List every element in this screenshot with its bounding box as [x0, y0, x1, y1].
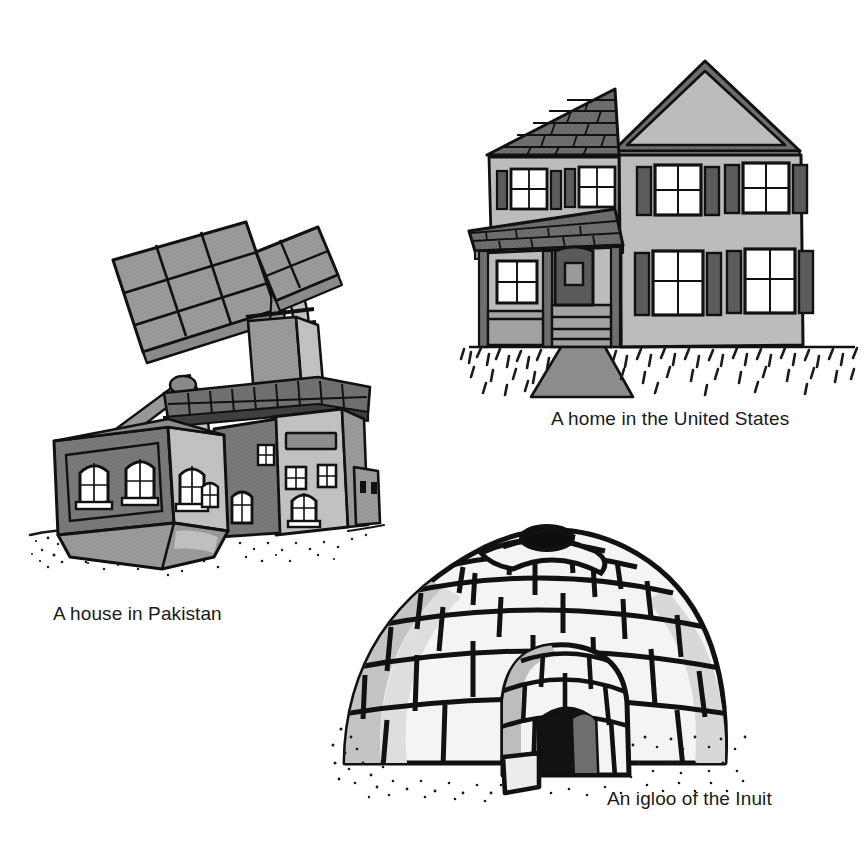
left-upper-windows [497, 167, 615, 209]
figure-inuit-igloo [325, 505, 755, 800]
shutter [707, 253, 721, 315]
right-block-lintel-panel [286, 433, 336, 449]
main-block-small-window [202, 482, 218, 507]
igloo-entrance-tunnel [501, 645, 631, 793]
shutter [551, 171, 561, 209]
shutter [705, 167, 719, 215]
left-lower-window [497, 261, 537, 303]
illustration-page: A house in Pakistan A home in the United… [0, 0, 868, 845]
shutter [799, 251, 813, 313]
shutter [727, 251, 741, 313]
annex-slit-1 [360, 481, 366, 493]
gable-field [627, 71, 785, 145]
left-wing [469, 89, 623, 347]
caption-inuit-igloo: An igloo of the Inuit [607, 788, 772, 810]
shutter [635, 253, 649, 315]
porch-post-middle [543, 251, 552, 347]
grass-tufts [461, 348, 857, 395]
front-door[interactable] [555, 247, 593, 305]
tunnel-lip-left [503, 753, 539, 793]
tunnel-opening-inner-light [573, 714, 597, 773]
figure-us-home [455, 55, 865, 400]
left-upper-roof [487, 89, 619, 155]
shutter [637, 167, 651, 215]
porch-post-right [611, 247, 620, 347]
walkway [531, 347, 633, 397]
house-main-block [54, 419, 228, 569]
house-united-states-illustration [455, 55, 865, 400]
igloo-illustration [325, 505, 755, 800]
porch-steps [552, 305, 611, 347]
shutter [725, 165, 739, 213]
shutter [497, 171, 507, 209]
porch-rail-left [488, 311, 543, 345]
shutter [793, 165, 807, 213]
door-panel [565, 263, 583, 285]
annex-slit-2 [371, 482, 377, 494]
caption-united-states-home: A home in the United States [551, 408, 789, 430]
porch-post-left [479, 251, 488, 347]
shutter [565, 169, 575, 207]
caption-pakistan-house: A house in Pakistan [53, 603, 222, 625]
